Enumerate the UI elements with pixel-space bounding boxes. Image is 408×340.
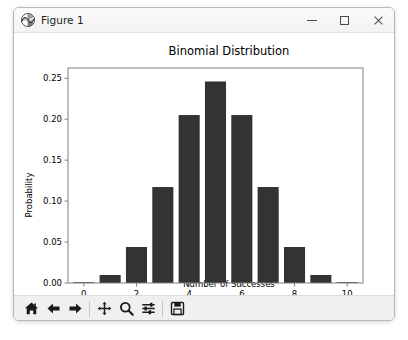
close-icon	[373, 16, 383, 26]
screen-root: Figure 1 Binomial Distribution Probabil	[0, 0, 408, 340]
bar	[152, 187, 173, 283]
configure-subplots-button[interactable]	[137, 298, 159, 320]
matplotlib-nav-toolbar	[14, 295, 394, 321]
forward-arrow-icon	[68, 301, 83, 316]
y-tick-label: 0.20	[43, 114, 62, 124]
bars-group	[73, 81, 357, 283]
y-tick-label: 0.10	[43, 196, 62, 206]
bar	[179, 115, 200, 283]
maximize-icon	[340, 16, 349, 25]
save-button[interactable]	[166, 298, 188, 320]
forward-button[interactable]	[64, 298, 86, 320]
binomial-distribution-chart: Binomial Distribution Probability Number…	[14, 33, 394, 295]
minimize-icon	[307, 20, 317, 21]
minimize-button[interactable]	[295, 8, 328, 33]
bar	[258, 187, 279, 283]
configure-subplots-icon	[141, 301, 156, 316]
maximize-button[interactable]	[328, 8, 361, 33]
zoom-magnifier-icon	[119, 301, 134, 316]
bar	[100, 275, 121, 283]
bar	[126, 247, 147, 283]
home-button[interactable]	[20, 298, 42, 320]
bar	[310, 275, 331, 283]
pan-button[interactable]	[93, 298, 115, 320]
bar	[231, 115, 252, 283]
back-arrow-icon	[46, 301, 61, 316]
close-button[interactable]	[361, 8, 394, 33]
y-axis-label: Probability	[24, 173, 34, 218]
window-controls	[295, 8, 394, 33]
y-tick-group: 0.000.050.100.150.200.25	[43, 73, 68, 288]
toolbar-separator-2	[162, 301, 163, 317]
bar	[205, 81, 226, 283]
back-button[interactable]	[42, 298, 64, 320]
pan-move-icon	[97, 301, 112, 316]
matplotlib-icon	[20, 12, 36, 28]
figure-canvas[interactable]: Binomial Distribution Probability Number…	[14, 33, 394, 295]
bar	[284, 247, 305, 283]
y-tick-label: 0.05	[43, 237, 62, 247]
toolbar-separator-1	[89, 301, 90, 317]
window-titlebar[interactable]: Figure 1	[14, 8, 394, 33]
home-icon	[24, 301, 39, 316]
save-floppy-icon	[170, 301, 185, 316]
window-title: Figure 1	[41, 14, 84, 26]
y-tick-label: 0.25	[43, 73, 62, 83]
y-tick-label: 0.15	[43, 155, 62, 165]
y-tick-label: 0.00	[43, 278, 62, 288]
chart-title: Binomial Distribution	[169, 44, 290, 58]
figure-window: Figure 1 Binomial Distribution Probabil	[13, 7, 395, 321]
zoom-button[interactable]	[115, 298, 137, 320]
